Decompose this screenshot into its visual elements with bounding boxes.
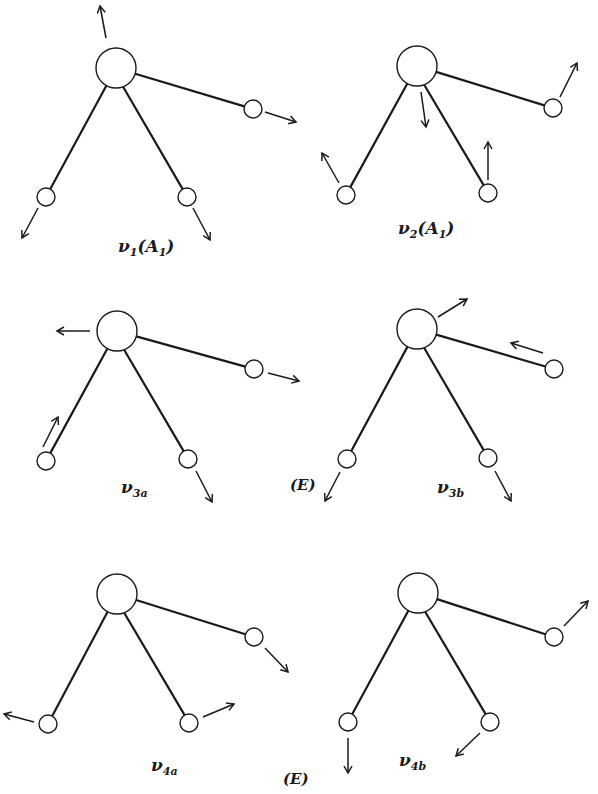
peripheral-atom xyxy=(245,360,263,378)
bond xyxy=(135,74,244,107)
displacement-arrow-icon xyxy=(560,63,577,97)
peripheral-atom xyxy=(245,628,263,646)
displacement-arrow-icon xyxy=(438,299,467,317)
peripheral-atom xyxy=(338,450,356,468)
bond xyxy=(52,612,107,716)
peripheral-atom xyxy=(481,713,499,731)
mode-v3a xyxy=(37,311,299,502)
bond xyxy=(136,600,245,634)
bond xyxy=(136,336,245,366)
symmetry-label-e-v3: (E) xyxy=(290,476,316,494)
displacement-arrow-icon xyxy=(325,472,340,501)
bond xyxy=(50,349,107,454)
displacement-arrow-icon xyxy=(193,208,210,240)
label-v4b: ν4b xyxy=(399,750,426,773)
central-atom xyxy=(397,46,437,86)
displacement-arrow-icon xyxy=(495,471,511,501)
peripheral-atom xyxy=(37,188,55,206)
peripheral-atom xyxy=(337,186,355,204)
bond xyxy=(436,335,545,367)
mode-v2 xyxy=(322,46,577,204)
bond xyxy=(420,603,486,714)
peripheral-atom xyxy=(479,184,497,202)
label-v1: ν1(A1) xyxy=(118,236,174,259)
displacement-arrow-icon xyxy=(265,112,296,122)
peripheral-atom xyxy=(37,452,55,470)
bond xyxy=(50,86,106,190)
displacement-arrow-icon xyxy=(421,92,426,127)
displacement-arrow-icon xyxy=(511,343,543,353)
displacement-arrow-icon xyxy=(268,373,299,381)
peripheral-atom xyxy=(179,450,197,468)
peripheral-atom xyxy=(244,100,262,118)
bond xyxy=(352,611,408,715)
central-atom xyxy=(96,48,136,88)
bond xyxy=(436,72,544,105)
bond xyxy=(119,341,184,451)
label-v3a: ν3a xyxy=(121,477,148,500)
displacement-arrow-icon xyxy=(265,648,288,672)
central-atom xyxy=(97,311,137,351)
peripheral-atom xyxy=(544,99,562,117)
bond xyxy=(350,84,407,188)
peripheral-atom xyxy=(178,188,196,206)
displacement-arrow-icon xyxy=(196,471,212,502)
peripheral-atom xyxy=(479,449,497,467)
peripheral-atom xyxy=(39,715,57,733)
displacement-arrow-icon xyxy=(22,208,38,238)
bond xyxy=(351,347,407,451)
peripheral-atom xyxy=(339,713,357,731)
bond xyxy=(419,76,484,185)
peripheral-atom xyxy=(545,360,563,378)
displacement-arrow-icon xyxy=(456,733,480,756)
bond xyxy=(419,339,484,450)
mode-v4a xyxy=(4,574,288,733)
mode-v3b xyxy=(325,299,563,501)
label-v4a: ν4a xyxy=(151,755,178,778)
peripheral-atom xyxy=(180,714,198,732)
displacement-arrow-icon xyxy=(203,704,234,717)
vibrational-modes-diagram: ν1(A1) ν2(A1) ν3a ν3b ν4a ν4b (E) (E) xyxy=(0,0,598,794)
bond xyxy=(119,604,185,715)
peripheral-atom xyxy=(545,628,563,646)
central-atom xyxy=(398,573,438,613)
displacement-arrow-icon xyxy=(322,153,339,183)
mode-v4b xyxy=(339,573,588,773)
label-v2: ν2(A1) xyxy=(398,218,454,241)
symmetry-label-e-v4: (E) xyxy=(283,770,309,788)
bond xyxy=(437,599,545,634)
central-atom xyxy=(397,309,437,349)
displacement-arrow-icon xyxy=(564,601,588,626)
displacement-arrow-icon xyxy=(4,714,34,722)
label-v3b: ν3b xyxy=(437,477,464,500)
bond xyxy=(118,78,183,189)
central-atom xyxy=(97,574,137,614)
mode-v1 xyxy=(22,6,296,240)
displacement-arrow-icon xyxy=(100,6,106,38)
